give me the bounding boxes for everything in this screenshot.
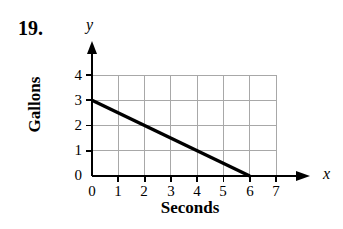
y-tick-label-1: 1 [68, 143, 82, 158]
x-tick-label-6: 6 [242, 184, 258, 199]
x-tick-label-5: 5 [215, 184, 231, 199]
x-tick-label-1: 1 [110, 184, 126, 199]
x-tick-label-3: 3 [163, 184, 179, 199]
graph-plot-area: y x 4 3 2 1 0 0 1 2 3 4 5 6 7 Seconds Ga… [0, 0, 343, 229]
figure-container: 19. [0, 0, 343, 229]
x-tick-label-4: 4 [189, 184, 205, 199]
y-axis-variable-label: y [86, 17, 93, 33]
y-tick-label-0: 0 [68, 168, 82, 183]
x-tick-label-2: 2 [136, 184, 152, 199]
x-tick-label-7: 7 [268, 184, 284, 199]
x-axis-variable-label: x [323, 166, 330, 182]
x-tick-label-0: 0 [84, 184, 100, 199]
x-axis [92, 171, 310, 181]
x-axis-title: Seconds [120, 199, 260, 216]
y-tick-label-2: 2 [68, 118, 82, 133]
y-axis-title: Gallons [26, 65, 43, 145]
y-tick-label-3: 3 [68, 93, 82, 108]
y-tick-label-4: 4 [68, 68, 82, 83]
y-axis [87, 41, 97, 176]
y-axis-arrow-icon [87, 41, 97, 54]
x-axis-arrow-icon [296, 171, 310, 181]
